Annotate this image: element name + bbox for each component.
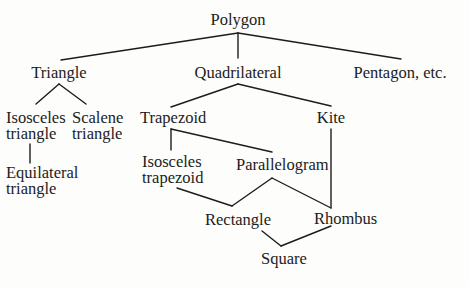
node-label: Trapezoid: [140, 110, 206, 126]
node-kite: Kite: [317, 110, 345, 126]
node-label: Kite: [317, 110, 345, 126]
node-equilateral-triangle: Equilateral triangle: [6, 165, 78, 197]
node-triangle: Triangle: [31, 65, 86, 81]
node-isosceles-trapezoid: Isosceles trapezoid: [142, 154, 203, 186]
node-parallelogram: Parallelogram: [236, 157, 329, 173]
node-label: Triangle: [31, 65, 86, 81]
node-label-line-2: triangle: [6, 181, 78, 197]
node-rectangle: Rectangle: [205, 212, 271, 228]
node-label: Square: [261, 251, 307, 267]
node-label: Polygon: [210, 12, 265, 28]
node-label: Rhombus: [314, 211, 377, 227]
node-rhombus: Rhombus: [314, 211, 377, 227]
node-polygon: Polygon: [210, 12, 265, 28]
polygon-hierarchy-diagram: Polygon Triangle Quadrilateral Pentagon,…: [0, 0, 469, 287]
edge-quadrilateral-trapezoid: [171, 84, 238, 107]
node-square: Square: [261, 251, 307, 267]
edge-parallelogram-rectangle: [232, 178, 272, 206]
edge-quadrilateral-kite: [238, 84, 331, 106]
edge-trapezoid-parallelogram: [171, 129, 272, 152]
node-pentagon: Pentagon, etc.: [353, 65, 446, 81]
node-label-line-2: triangle: [72, 126, 123, 142]
edge-polygon-pentagon: [238, 33, 401, 59]
edge-triangle-scalene: [59, 84, 86, 104]
edge-isosceles-trapezoid-rectangle: [177, 188, 232, 206]
edge-triangle-isosceles: [36, 84, 59, 104]
node-label: Parallelogram: [236, 157, 329, 173]
edge-polygon-triangle: [61, 33, 238, 60]
node-label: Rectangle: [205, 212, 271, 228]
node-trapezoid: Trapezoid: [140, 110, 206, 126]
node-scalene-triangle: Scalene triangle: [72, 110, 123, 142]
node-isosceles-triangle: Isosceles triangle: [6, 110, 66, 142]
node-label-line-2: trapezoid: [142, 170, 203, 186]
node-label-line-2: triangle: [6, 126, 66, 142]
node-quadrilateral: Quadrilateral: [194, 65, 281, 81]
diagram-edges: [0, 0, 469, 287]
node-label: Pentagon, etc.: [353, 65, 446, 81]
edge-rhombus-square: [281, 226, 331, 246]
edge-parallelogram-rhombus: [272, 178, 331, 208]
node-label: Quadrilateral: [194, 65, 281, 81]
edge-rectangle-square: [262, 231, 281, 246]
